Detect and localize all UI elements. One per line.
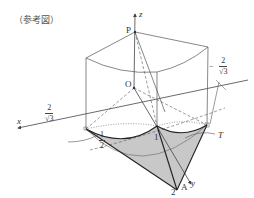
fraction-two-over-root3: 2 √3 xyxy=(45,104,53,123)
region-T-label: T xyxy=(218,131,223,140)
point-O-dot xyxy=(133,87,135,89)
box-top-edge xyxy=(86,32,135,58)
point-O-label: O xyxy=(125,80,132,89)
box-top-arc xyxy=(86,58,157,72)
point-P-dot xyxy=(134,31,136,33)
figure-caption: （参考図） xyxy=(14,16,59,25)
tick-label-2: 2 xyxy=(171,188,176,197)
fraction-one-half: 1 2 xyxy=(99,131,105,150)
dashed-line xyxy=(86,88,134,129)
y-axis-label: y xyxy=(191,179,195,188)
base-dotted-arc xyxy=(157,122,207,126)
z-axis-label: z xyxy=(139,10,143,19)
z-axis xyxy=(134,14,135,88)
base-dotted-arc xyxy=(86,124,157,129)
x-axis-label: x xyxy=(17,117,21,126)
box-vertical-edge xyxy=(207,47,208,125)
right-tick-line xyxy=(210,82,219,124)
box-top-arc xyxy=(157,47,208,72)
dashed-line xyxy=(135,32,157,126)
point-P-label: P xyxy=(126,26,131,35)
point-A-label: A xyxy=(181,183,188,192)
tick-label-1: 1 xyxy=(154,133,159,142)
fraction-neg-two-over-root3: 2 √3 xyxy=(219,57,227,76)
reference-diagram: （参考図） z P O x y A 2 1 T 2 √3 − 2 √3 1 2 xyxy=(0,0,254,198)
neg-sign: − xyxy=(209,63,214,71)
box-top-edge xyxy=(135,32,208,47)
